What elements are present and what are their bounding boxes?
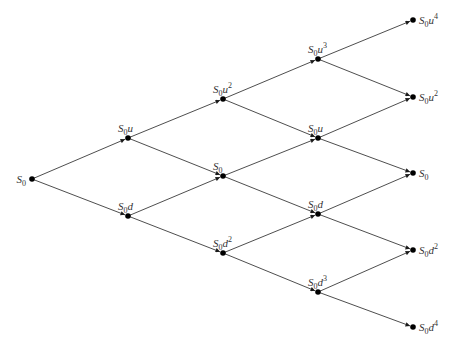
edge-n31-n42 <box>318 138 410 172</box>
edge-n30-n41 <box>318 59 410 96</box>
edge-n21-n32 <box>223 176 315 213</box>
edge-n30-n40 <box>318 21 410 59</box>
edge-n21-n31 <box>223 139 315 176</box>
edge-n20-n31 <box>223 99 315 137</box>
node-label-n11: S0d <box>118 200 134 215</box>
node-label-n41: S0u2 <box>419 89 438 106</box>
node-label-n44: S0d4 <box>419 319 438 336</box>
node-label-n42: S0 <box>419 167 429 182</box>
node-label-n33: S0d3 <box>308 274 327 291</box>
node-label-n43: S0d2 <box>419 242 438 259</box>
edge-n11-n22 <box>128 216 220 252</box>
node-label-n20: S0u2 <box>213 81 232 98</box>
edge-n00-n11 <box>32 179 125 215</box>
edge-n31-n41 <box>318 98 410 138</box>
node-label-n30: S0u3 <box>308 41 327 58</box>
edge-n11-n21 <box>128 177 220 216</box>
node-label-n40: S0u4 <box>419 12 438 29</box>
node-label-n22: S0d2 <box>213 235 232 252</box>
binomial-tree-diagram: S0S0uS0dS0u2S0S0d2S0u3S0uS0dS0d3S0u4S0u2… <box>0 0 451 346</box>
node-label-n10: S0u <box>118 122 134 137</box>
node-dot-n41 <box>410 94 416 100</box>
edge-n22-n33 <box>223 253 315 291</box>
node-dot-n00 <box>29 176 35 182</box>
labels-layer: S0S0uS0dS0u2S0S0d2S0u3S0uS0dS0d3S0u4S0u2… <box>17 12 439 336</box>
edge-n20-n30 <box>223 60 315 99</box>
edge-n33-n43 <box>318 251 410 292</box>
node-label-n00: S0 <box>17 173 27 188</box>
node-dot-n43 <box>410 247 416 253</box>
edge-n32-n43 <box>318 214 410 249</box>
edge-n32-n42 <box>318 174 410 214</box>
edge-n00-n10 <box>32 139 125 179</box>
node-label-n31: S0u <box>308 122 324 137</box>
edge-n10-n20 <box>128 100 220 138</box>
edge-n33-n44 <box>318 292 410 326</box>
node-label-n32: S0d <box>308 198 324 213</box>
node-dot-n44 <box>410 324 416 330</box>
nodes-layer <box>29 17 416 330</box>
edge-n22-n32 <box>223 215 315 253</box>
edge-n10-n21 <box>128 138 220 175</box>
node-dot-n42 <box>410 170 416 176</box>
node-dot-n40 <box>410 17 416 23</box>
